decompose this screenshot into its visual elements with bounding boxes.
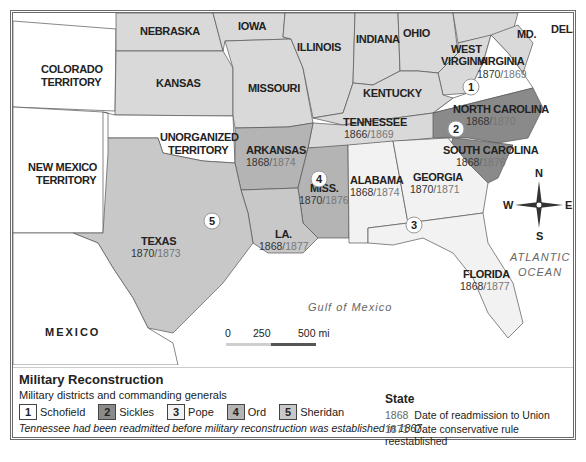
district-marker-2: 2	[448, 121, 464, 137]
label-ut-2: TERRITORY	[168, 144, 229, 156]
label-md: MD.	[517, 28, 537, 40]
svg-text:W: W	[503, 199, 514, 211]
dates-nc: 1868/1870	[466, 115, 516, 127]
label-tennessee: TENNESSEE	[343, 116, 407, 128]
label-mexico: MEXICO	[45, 326, 100, 338]
dates-sc: 1868/1876	[456, 156, 506, 168]
svg-text:1: 1	[468, 81, 474, 93]
legend-title: Military Reconstruction	[19, 372, 163, 387]
label-ohio: OHIO	[403, 27, 431, 39]
state-key-row-conservative: 1871Date conservative rule reestablished	[385, 423, 573, 447]
label-atlantic-1: ATLANTIC	[509, 251, 570, 263]
label-gulf-of-mexico: Gulf of Mexico	[308, 301, 392, 313]
svg-text:N: N	[535, 167, 543, 179]
label-atlantic-2: OCEAN	[518, 266, 562, 278]
district-marker-3: 3	[406, 217, 422, 233]
dates-virginia: 1870/1869	[477, 68, 527, 80]
legend: Military Reconstruction Military distric…	[13, 367, 573, 438]
svg-text:2: 2	[453, 123, 459, 135]
legend-district-4: 4Ord	[227, 404, 266, 420]
state-key-title: State	[385, 392, 414, 406]
label-alabama: ALABAMA	[350, 174, 404, 186]
reconstruction-map: COLORADO TERRITORY NEBRASKA IOWA ILLINOI…	[13, 13, 573, 365]
dates-alabama: 1868/1874	[350, 186, 400, 198]
legend-district-1: 1Schofield	[19, 404, 85, 420]
label-nm-2: TERRITORY	[36, 174, 97, 186]
label-missouri: MISSOURI	[248, 82, 300, 94]
legend-district-3: 3Pope	[167, 404, 214, 420]
label-florida: FLORIDA	[463, 268, 510, 280]
svg-text:E: E	[565, 199, 572, 211]
svg-text:0: 0	[225, 327, 231, 339]
state-key-row-readmission: 1868Date of readmission to Union	[385, 409, 550, 421]
label-iowa: IOWA	[238, 20, 266, 32]
label-colorado-2: TERRITORY	[41, 76, 102, 88]
label-kentucky: KENTUCKY	[363, 87, 423, 99]
district-marker-5: 5	[204, 213, 220, 229]
region-indiana	[353, 13, 400, 85]
dates-miss: 1870/1876	[299, 194, 349, 206]
legend-district-5: 5Sheridan	[279, 404, 344, 420]
label-sc: SOUTH CAROLINA	[443, 144, 539, 156]
label-georgia: GEORGIA	[413, 171, 463, 183]
label-nebraska: NEBRASKA	[140, 25, 200, 37]
label-nm-1: NEW MEXICO	[28, 161, 98, 173]
label-la: LA.	[275, 228, 292, 240]
legend-district-2: 2Sickles	[98, 404, 154, 420]
legend-note: Tennessee had been readmitted before mil…	[19, 422, 425, 434]
label-kansas: KANSAS	[156, 77, 201, 89]
svg-text:500 mi: 500 mi	[298, 327, 330, 339]
district-marker-4: 4	[311, 171, 327, 187]
dates-texas: 1870/1873	[131, 247, 181, 259]
label-texas: TEXAS	[141, 235, 176, 247]
svg-text:3: 3	[411, 219, 417, 231]
svg-text:S: S	[536, 230, 543, 242]
dates-tennessee: 1866/1869	[344, 128, 394, 140]
district-marker-1: 1	[463, 79, 479, 95]
dates-arkansas: 1868/1874	[246, 156, 296, 168]
label-nc: NORTH CAROLINA	[453, 103, 549, 115]
label-colorado-1: COLORADO	[41, 63, 104, 75]
label-del: DEL.	[551, 23, 573, 35]
label-arkansas: ARKANSAS	[246, 144, 306, 156]
dates-la: 1868/1877	[259, 240, 309, 252]
label-illinois: ILLINOIS	[297, 41, 341, 53]
label-wv-1: WEST	[451, 43, 482, 55]
svg-text:5: 5	[209, 215, 215, 227]
label-ut-1: UNORGANIZED	[160, 131, 239, 143]
dates-florida: 1868/1877	[460, 280, 510, 292]
label-indiana: INDIANA	[356, 33, 400, 45]
district-legend: 1Schofield 2Sickles 3Pope 4Ord 5Sheridan	[19, 404, 353, 420]
dates-georgia: 1870/1871	[410, 183, 460, 195]
svg-text:250: 250	[253, 327, 271, 339]
label-virginia: VIRGINIA	[478, 55, 525, 67]
legend-subtitle: Military districts and commanding genera…	[19, 389, 227, 401]
